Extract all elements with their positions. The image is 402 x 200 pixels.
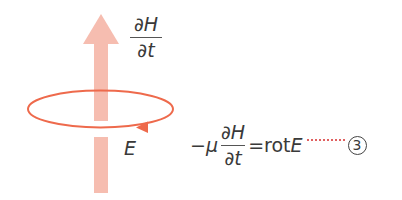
loop-label-E: E — [124, 137, 136, 159]
eq-numerator: ∂H — [221, 122, 245, 142]
field-diagram — [0, 0, 402, 200]
eq-mu: μ — [206, 134, 218, 156]
eq-E: E — [291, 134, 303, 156]
arrow-label-numerator: ∂H — [134, 14, 158, 34]
arrow-shaft-lower — [94, 137, 108, 193]
equation-3: − μ ∂H ∂t = rot E 3 — [190, 122, 367, 168]
eq-fraction: ∂H ∂t — [221, 122, 245, 168]
eq-equals: = — [248, 134, 264, 156]
dotted-leader — [307, 139, 345, 141]
arrow-head-icon — [83, 14, 119, 44]
arrow-shaft-upper — [94, 42, 108, 121]
eq-rot: rot — [264, 134, 290, 156]
arrow-label-fraction: ∂H ∂t — [130, 14, 162, 60]
fraction-bar — [130, 37, 162, 38]
eq-denominator: ∂t — [224, 148, 241, 168]
arrow-label-denominator: ∂t — [137, 40, 154, 60]
eq-fraction-bar — [221, 145, 245, 146]
equation-number-circle: 3 — [348, 136, 367, 155]
eq-minus-sign: − — [190, 134, 206, 156]
